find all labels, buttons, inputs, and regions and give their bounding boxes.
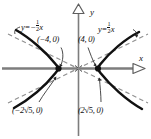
- x-axis-label: x: [139, 54, 143, 63]
- focus-right-label: (2√5, 0): [78, 106, 103, 115]
- leader-vertex-left: [61, 48, 63, 67]
- asymptote-neg-variable: x: [39, 22, 43, 32]
- leader-lines: [15, 27, 139, 102]
- asymptote-neg-sign: −: [30, 22, 36, 32]
- asymptote-pos-equals: =: [102, 24, 108, 34]
- focus-right-radical: √5: [84, 105, 92, 115]
- leader-vertex-right: [88, 48, 96, 66]
- hyperbola-figure: y x y=−12x y=12x (−4, 0) (4, 0) (−2√5, 0…: [0, 0, 151, 139]
- asymptote-positive-label: y=12x: [98, 21, 114, 34]
- focus-right-suffix: , 0): [93, 105, 103, 115]
- vertex-right-label: (4, 0): [78, 35, 95, 44]
- vertex-left-label: (−4, 0): [37, 35, 59, 44]
- y-axis-arrow-icon: [73, 4, 84, 14]
- focus-left-suffix: , 0): [32, 105, 42, 115]
- focus-left-prefix: (−2: [12, 105, 24, 115]
- focus-left-radical: √5: [24, 105, 32, 115]
- leader-asymptote-pos-arrow-icon: [134, 35, 138, 38]
- focus-left-label: (−2√5, 0): [12, 106, 42, 115]
- asymptote-negative-label: y=−12x: [21, 19, 43, 32]
- y-axis-label: y: [90, 8, 94, 17]
- asymptote-pos-variable: x: [111, 24, 115, 34]
- leader-focus-right: [100, 79, 102, 102]
- x-axis-arrow-icon: [133, 64, 145, 74]
